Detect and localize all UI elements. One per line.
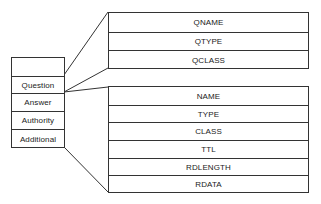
field-qclass-label: QCLASS — [192, 56, 225, 65]
section-question-label: Question — [22, 81, 55, 90]
connector-rr-top — [64, 87, 108, 92]
field-qname-label: QNAME — [194, 18, 224, 27]
field-type-label: TYPE — [198, 110, 219, 119]
field-ttl-label: TTL — [201, 145, 216, 154]
field-qname: QNAME — [109, 13, 308, 32]
section-authority: Authority — [12, 111, 64, 129]
section-additional: Additional — [12, 129, 64, 148]
section-authority-label: Authority — [22, 116, 54, 125]
connector-question-bottom — [64, 68, 108, 92]
question-fields-box: QNAME QTYPE QCLASS — [108, 12, 309, 69]
resource-record-box: NAME TYPE CLASS TTL RDLENGTH RDATA — [108, 86, 309, 193]
message-sections-box: Question Answer Authority Additional — [11, 57, 65, 148]
field-qtype-label: QTYPE — [195, 37, 223, 46]
field-name: NAME — [109, 87, 308, 105]
field-rdata-label: RDATA — [195, 180, 221, 189]
field-qclass: QCLASS — [109, 50, 308, 69]
connector-rr-bottom — [64, 147, 108, 192]
field-rdlength-label: RDLENGTH — [186, 163, 231, 172]
field-rdata: RDATA — [109, 175, 308, 193]
field-class-label: CLASS — [195, 127, 222, 136]
connector-question-top — [64, 12, 108, 75]
field-rdlength: RDLENGTH — [109, 158, 308, 175]
field-ttl: TTL — [109, 140, 308, 158]
field-class: CLASS — [109, 122, 308, 140]
section-answer-label: Answer — [24, 98, 51, 107]
field-name-label: NAME — [197, 92, 221, 101]
field-type: TYPE — [109, 105, 308, 122]
message-header-section — [12, 58, 64, 76]
section-additional-label: Additional — [20, 135, 56, 144]
section-answer: Answer — [12, 93, 64, 111]
section-question: Question — [12, 76, 64, 93]
field-qtype: QTYPE — [109, 32, 308, 50]
